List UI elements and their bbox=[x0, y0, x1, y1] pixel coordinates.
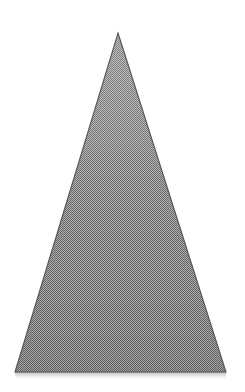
figure-canvas bbox=[0, 0, 245, 392]
triangle-figure-svg bbox=[0, 0, 245, 392]
base-shadow bbox=[15, 372, 226, 380]
